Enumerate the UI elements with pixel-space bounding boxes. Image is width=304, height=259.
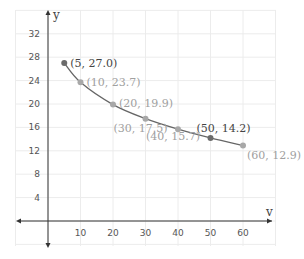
y-tick-label: 32 <box>29 29 40 39</box>
y-axis-arrow-down-icon <box>46 243 51 248</box>
y-axis-label: y <box>52 8 60 22</box>
y-tick-label: 16 <box>29 122 41 132</box>
point-labels: (5, 27.0)(10, 23.7)(20, 19.9)(30, 17.5)(… <box>70 57 301 161</box>
chart: 10203040506048121620242832 (5, 27.0)(10,… <box>0 0 304 259</box>
y-tick-label: 20 <box>29 99 41 109</box>
point-label: (50, 14.2) <box>197 122 251 135</box>
x-axis-label: v <box>265 205 273 219</box>
point-label: (40, 15.7) <box>146 130 200 143</box>
x-tick-label: 60 <box>237 228 249 238</box>
y-tick-label: 28 <box>29 52 41 62</box>
y-tick-label: 12 <box>29 146 40 156</box>
data-point <box>208 135 214 141</box>
y-tick-label: 8 <box>34 169 40 179</box>
x-tick-label: 30 <box>140 228 152 238</box>
x-tick-label: 40 <box>172 228 184 238</box>
point-label: (60, 12.9) <box>247 149 301 162</box>
data-point <box>78 79 84 85</box>
data-point <box>110 102 116 108</box>
point-label: (20, 19.9) <box>119 97 173 110</box>
point-label: (5, 27.0) <box>70 57 117 70</box>
data-point <box>61 60 67 66</box>
x-axis-arrow-right-icon <box>267 219 272 224</box>
point-label: (10, 23.7) <box>87 76 141 89</box>
x-tick-label: 50 <box>205 228 217 238</box>
x-tick-label: 10 <box>75 228 87 238</box>
x-axis-arrow-left-icon <box>16 219 21 224</box>
y-tick-label: 24 <box>29 76 41 86</box>
y-tick-label: 4 <box>34 193 40 203</box>
data-point <box>240 143 246 149</box>
x-tick-label: 20 <box>107 228 119 238</box>
